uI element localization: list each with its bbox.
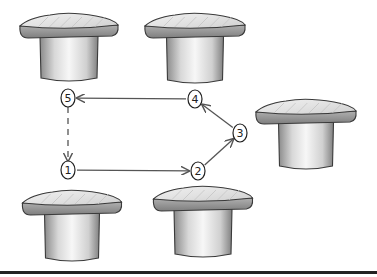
node-5: 5 (61, 89, 75, 107)
node-label: 1 (65, 164, 72, 177)
stool-cap-top (20, 13, 118, 28)
stool-right (256, 99, 356, 169)
stool-cap-top (154, 186, 253, 201)
stool-cap-top (23, 190, 122, 205)
edge-2-to-3 (205, 139, 234, 165)
stool-top-left (20, 13, 118, 81)
edge-3-to-4 (202, 104, 233, 127)
stool-cap-top (145, 13, 245, 28)
node-3: 3 (233, 124, 247, 142)
node-2: 2 (191, 162, 205, 180)
stool-bottom-left (22, 190, 121, 261)
stool-stem (40, 36, 98, 81)
node-label: 5 (65, 92, 72, 105)
stool-stem (279, 122, 334, 169)
stool-stem (174, 209, 232, 257)
stool-stem (167, 36, 224, 83)
nodes-layer: 12345 (61, 89, 247, 180)
stool-cap-top (256, 99, 356, 114)
stools-layer (20, 13, 356, 261)
baseline-rule (0, 271, 377, 274)
node-label: 4 (192, 93, 199, 106)
node-label: 3 (237, 127, 244, 140)
node-1: 1 (61, 161, 75, 179)
node-4: 4 (188, 90, 202, 108)
stool-bottom-center (153, 186, 252, 257)
stool-stem (45, 213, 100, 261)
node-label: 2 (195, 165, 202, 178)
edge-1-to-2 (77, 170, 189, 171)
stool-top-center (145, 13, 245, 83)
diagram-canvas: 12345 (0, 0, 377, 277)
edge-4-to-5 (77, 98, 186, 99)
edges-layer (68, 98, 233, 171)
